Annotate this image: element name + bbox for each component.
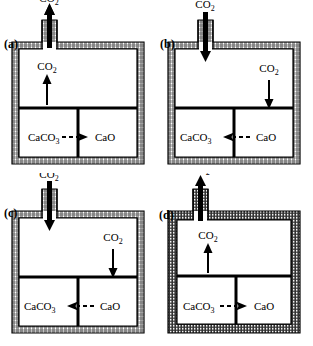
figure-root: (a) CO2 CO2 CaCO3 CaO xyxy=(0,0,313,346)
neck-co2-main: CO xyxy=(39,173,54,180)
inner-co2-sub: 2 xyxy=(214,235,218,244)
neck-flow-shaft xyxy=(47,12,52,48)
neck-co2-sub: 2 xyxy=(55,0,59,7)
inner-co2-sub: 2 xyxy=(275,68,279,77)
neck-flow-arrowhead xyxy=(195,175,206,186)
inner-co2-sub: 2 xyxy=(53,66,57,75)
caco3-main: CaCO xyxy=(183,300,211,312)
panel-label: (c) xyxy=(4,206,17,220)
panel-d: (d) CO2 CO2 CaCO3 CaO xyxy=(156,173,312,346)
cao-label: CaO xyxy=(254,300,274,312)
neck-co2-main: CO xyxy=(39,0,54,4)
panel-label: (a) xyxy=(4,37,18,51)
neck-co2-sub: 2 xyxy=(211,4,215,13)
svg-text:CO2: CO2 xyxy=(195,0,214,13)
panel-b: (b) CO2 CO2 CaCO3 CaO xyxy=(156,0,312,173)
inner-co2-main: CO xyxy=(259,62,274,74)
caco3-main: CaCO xyxy=(24,300,52,312)
panel-d-diagram: (d) CO2 CO2 CaCO3 CaO xyxy=(156,173,312,346)
neck-co2-group: CO2 xyxy=(195,0,214,13)
neck-flow-shaft xyxy=(203,12,208,52)
caco3-sub: 3 xyxy=(52,306,56,315)
neck-co2-sub: 2 xyxy=(206,173,210,177)
panel-c-diagram: (c) CO2 CO2 CaCO3 CaO xyxy=(0,173,156,346)
neck-flow-shaft xyxy=(47,181,52,221)
neck-co2-sub: 2 xyxy=(55,174,59,183)
inner-co2-sub: 2 xyxy=(119,237,123,246)
panel-a-diagram: (a) CO2 CO2 CaCO3 CaO xyxy=(0,0,156,173)
panel-label: (d) xyxy=(159,208,174,222)
inner-co2-main: CO xyxy=(198,229,213,241)
panel-b-diagram: (b) CO2 CO2 CaCO3 CaO xyxy=(156,0,312,173)
panel-label: (b) xyxy=(160,37,175,51)
neck-flow-shaft xyxy=(198,183,203,221)
caco3-sub: 3 xyxy=(208,137,212,146)
caco3-main: CaCO xyxy=(180,131,208,143)
neck-co2-main: CO xyxy=(195,0,210,10)
neck-co2-main: CO xyxy=(190,173,205,174)
inner-co2-main: CO xyxy=(103,231,118,243)
caco3-sub: 3 xyxy=(56,137,60,146)
panel-a: (a) CO2 CO2 CaCO3 CaO xyxy=(0,0,156,173)
caco3-sub: 3 xyxy=(211,306,215,315)
cao-label: CaO xyxy=(100,300,120,312)
cao-label: CaO xyxy=(256,131,276,143)
cao-label: CaO xyxy=(95,131,115,143)
caco3-main: CaCO xyxy=(28,131,56,143)
panel-c: (c) CO2 CO2 CaCO3 CaO xyxy=(0,173,156,346)
inner-co2-main: CO xyxy=(37,60,52,72)
